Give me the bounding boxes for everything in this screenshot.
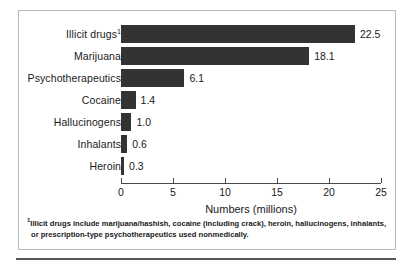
bar-category-label: Marijuana (74, 45, 121, 67)
bottom-divider-rule (16, 258, 396, 260)
x-axis-tick (121, 178, 122, 183)
bar-category-label: Heroin (89, 155, 121, 177)
bar-value-label: 1.4 (141, 89, 156, 111)
bar-row: Psychotherapeutics6.1 (19, 67, 397, 89)
x-axis-tick (381, 178, 382, 183)
x-axis-tick (173, 178, 174, 183)
bar (121, 25, 355, 43)
bar-value-label: 0.3 (129, 155, 144, 177)
footnote-line-2: or prescription-type psychotherapeutics … (27, 230, 389, 241)
x-axis-tick-label: 20 (323, 186, 335, 198)
footnote-line-1-text: Illicit drugs include marijuana/hashish,… (30, 219, 386, 228)
x-axis-tick-label: 10 (219, 186, 231, 198)
bar-value-label: 6.1 (189, 67, 204, 89)
bar-category-label: Hallucinogens (54, 111, 121, 133)
bar-row: Illicit drugs122.5 (19, 23, 397, 45)
x-axis-tick-label: 25 (375, 186, 387, 198)
x-axis-tick-label: 5 (170, 186, 176, 198)
bar (121, 91, 136, 109)
bar-row: Marijuana18.1 (19, 45, 397, 67)
bar-row: Cocaine1.4 (19, 89, 397, 111)
figure-box: Illicit drugs122.5Marijuana18.1Psychothe… (18, 10, 396, 250)
bar (121, 113, 131, 131)
x-axis-tick (277, 178, 278, 183)
bar-category-label: Illicit drugs1 (66, 23, 121, 45)
bar-category-label: Psychotherapeutics (28, 67, 121, 89)
bar-value-label: 22.5 (360, 23, 380, 45)
x-axis-tick-label: 15 (271, 186, 283, 198)
bar-value-label: 18.1 (314, 45, 334, 67)
bar-row: Hallucinogens1.0 (19, 111, 397, 133)
bar-value-label: 0.6 (132, 133, 147, 155)
x-axis-tick (329, 178, 330, 183)
bar (121, 47, 309, 65)
x-axis-line (121, 183, 381, 184)
bar-row: Inhalants0.6 (19, 133, 397, 155)
x-axis-title: Numbers (millions) (121, 203, 381, 215)
x-axis-tick-label: 0 (118, 186, 124, 198)
footnote-line-1: 1Illicit drugs include marijuana/hashish… (27, 219, 386, 228)
bar-category-label: Inhalants (77, 133, 121, 155)
bar-category-label: Cocaine (82, 89, 121, 111)
bar-chart-plot-area: Illicit drugs122.5Marijuana18.1Psychothe… (19, 11, 397, 251)
bar-row: Heroin0.3 (19, 155, 397, 177)
bar (121, 157, 124, 175)
footnote: 1Illicit drugs include marijuana/hashish… (27, 219, 389, 240)
bar (121, 69, 184, 87)
bar-value-label: 1.0 (136, 111, 151, 133)
x-axis-tick (225, 178, 226, 183)
bar (121, 135, 127, 153)
